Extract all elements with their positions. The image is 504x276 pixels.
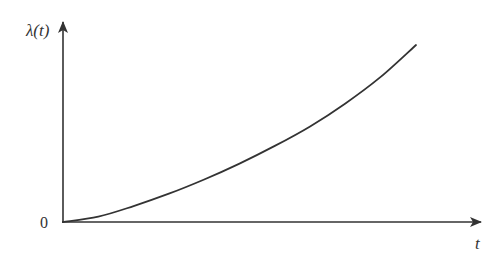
y-axis-label: λ(t) xyxy=(25,21,50,40)
failure-rate-chart: λ(t) 0 t xyxy=(0,0,504,276)
origin-label: 0 xyxy=(40,214,48,231)
x-axis-label: t xyxy=(475,234,481,253)
lambda-curve xyxy=(63,45,416,222)
